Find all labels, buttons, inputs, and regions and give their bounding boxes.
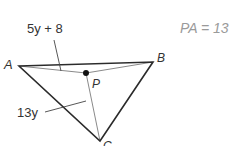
point-p [83,70,89,76]
vertex-label-b: B [157,51,165,65]
given-equation: PA = 13 [180,20,229,36]
segment-label-pa: 5y + 8 [27,21,63,36]
segment-label-pc: 13y [17,105,38,120]
vertex-label-a: A [3,57,13,72]
leader-line-13y [45,101,86,112]
segment-pa [19,66,86,73]
vertex-label-c: C [103,139,112,146]
leader-line-5y-plus-8 [54,40,61,71]
point-label-p: P [92,77,100,91]
triangle-diagram: A B C P 5y + 8 13y PA = 13 [0,0,247,146]
